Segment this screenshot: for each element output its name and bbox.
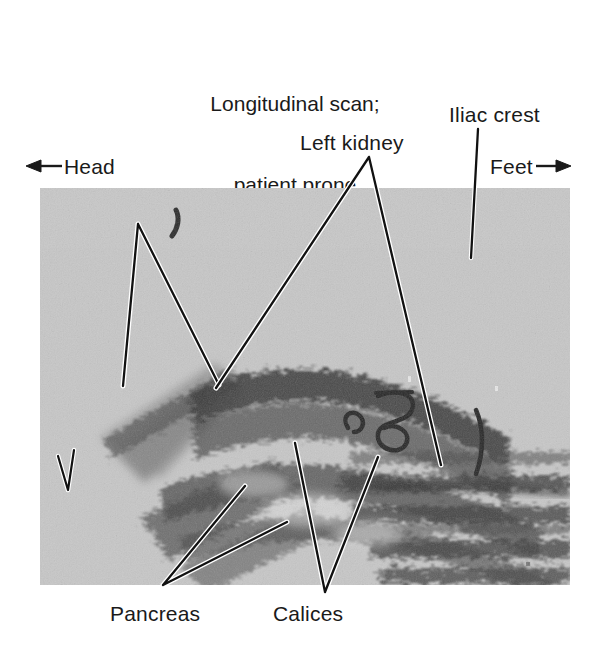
ultrasound-scan-image	[40, 188, 570, 585]
label-head: Head	[64, 153, 115, 180]
label-calices: Calices	[273, 600, 343, 627]
label-pancreas: Pancreas	[110, 600, 200, 627]
scan-canvas	[40, 188, 570, 585]
label-left-kidney: Left kidney	[300, 129, 404, 156]
label-iliac-crest: Iliac crest	[449, 101, 540, 128]
ultrasound-figure: Longitudinal scan; patient prone 8 cm to…	[0, 0, 590, 653]
label-feet: Feet	[490, 153, 533, 180]
